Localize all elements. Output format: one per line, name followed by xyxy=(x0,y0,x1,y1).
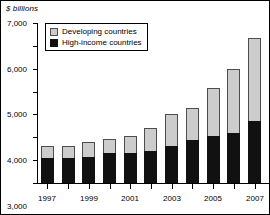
y-tick-3000: 3,000 xyxy=(33,114,37,115)
y-tick-6000: 6,000 xyxy=(33,46,37,47)
x-tick-label-2007: 2007 xyxy=(246,194,264,203)
y-tick-1000: 1,000 xyxy=(33,160,37,161)
bar-segment-high-income-2002 xyxy=(144,151,157,183)
bar-2000[interactable] xyxy=(103,139,116,183)
y-tick-7000: 7,000 xyxy=(33,23,37,24)
bar-segment-high-income-2003 xyxy=(165,146,178,183)
bar-segment-high-income-1997 xyxy=(41,158,54,183)
bar-2002[interactable] xyxy=(144,128,157,183)
y-tick-label-7000: 7,000 xyxy=(7,19,27,28)
bar-segment-developing-2001 xyxy=(124,136,137,152)
x-tick-label-2003: 2003 xyxy=(163,194,181,203)
bar-2006[interactable] xyxy=(227,69,240,183)
x-tick-2002 xyxy=(151,184,152,189)
legend-swatch-developing-icon xyxy=(50,28,58,36)
x-tick-1998 xyxy=(68,184,69,189)
bar-segment-high-income-2000 xyxy=(103,153,116,183)
y-axis-line xyxy=(37,23,38,184)
bar-segment-developing-2000 xyxy=(103,139,116,153)
bar-segment-high-income-1998 xyxy=(62,158,75,183)
x-tick-2000 xyxy=(110,184,111,189)
bar-1998[interactable] xyxy=(62,146,75,183)
y-tick-label-3000: 3,000 xyxy=(7,201,27,210)
legend-label-high-income: High-income countries xyxy=(62,38,142,47)
y-tick-0: 0 xyxy=(33,183,37,184)
x-tick-2007 xyxy=(255,184,256,189)
bar-segment-developing-2005 xyxy=(207,88,220,136)
x-tick-2003 xyxy=(172,184,173,189)
x-tick-label-1999: 1999 xyxy=(80,194,98,203)
x-tick-label-2001: 2001 xyxy=(121,194,139,203)
bar-segment-high-income-2006 xyxy=(227,133,240,183)
y-tick-4000: 4,000 xyxy=(33,92,37,93)
bar-segment-developing-2002 xyxy=(144,128,157,151)
bar-2003[interactable] xyxy=(165,114,178,183)
bar-segment-high-income-2004 xyxy=(186,140,199,183)
x-tick-2006 xyxy=(234,184,235,189)
bar-2001[interactable] xyxy=(124,136,137,183)
x-tick-1999 xyxy=(89,184,90,189)
bar-segment-high-income-1999 xyxy=(82,157,95,183)
bar-segment-high-income-2001 xyxy=(124,153,137,183)
x-tick-label-2005: 2005 xyxy=(204,194,222,203)
y-axis-unit-label: $ billions xyxy=(6,4,38,13)
bar-segment-high-income-2005 xyxy=(207,136,220,183)
y-tick-label-5000: 5,000 xyxy=(7,110,27,119)
bar-segment-developing-2006 xyxy=(227,69,240,133)
bar-segment-developing-2007 xyxy=(248,38,261,121)
bar-segment-high-income-2007 xyxy=(248,121,261,183)
legend-label-developing: Developing countries xyxy=(62,27,137,36)
bar-segment-developing-1998 xyxy=(62,146,75,159)
bar-1999[interactable] xyxy=(82,142,95,183)
x-tick-2001 xyxy=(130,184,131,189)
bar-segment-developing-2003 xyxy=(165,114,178,146)
bar-2005[interactable] xyxy=(207,88,220,183)
legend-item-high-income: High-income countries xyxy=(50,38,142,47)
chart-container: $ billions 01,0002,0003,0004,0005,0006,0… xyxy=(0,0,270,215)
y-tick-label-6000: 6,000 xyxy=(7,64,27,73)
y-tick-5000: 5,000 xyxy=(33,69,37,70)
x-tick-2005 xyxy=(213,184,214,189)
bar-1997[interactable] xyxy=(41,146,54,183)
legend-item-developing: Developing countries xyxy=(50,27,142,36)
bar-segment-developing-1997 xyxy=(41,146,54,159)
legend-swatch-high-income-icon xyxy=(50,39,58,47)
x-tick-2004 xyxy=(192,184,193,189)
bar-segment-developing-1999 xyxy=(82,142,95,156)
bar-2004[interactable] xyxy=(186,108,199,183)
x-tick-1997 xyxy=(47,184,48,189)
chart-legend: Developing countries High-income countri… xyxy=(45,23,148,51)
bar-segment-developing-2004 xyxy=(186,108,199,140)
y-tick-2000: 2,000 xyxy=(33,137,37,138)
x-tick-label-1997: 1997 xyxy=(38,194,56,203)
y-tick-label-4000: 4,000 xyxy=(7,156,27,165)
bar-2007[interactable] xyxy=(248,38,261,183)
